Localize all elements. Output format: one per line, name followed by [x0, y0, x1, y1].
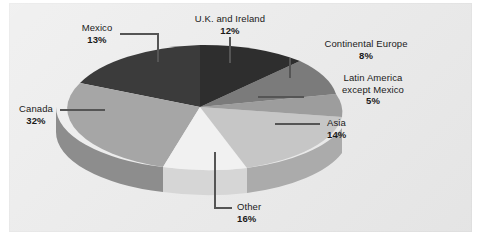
pie-label-latin-america: Latin America except Mexico 5%	[308, 72, 438, 107]
pie-chart-figure: Mexico 13% U.K. and Ireland 12% Continen…	[0, 0, 486, 245]
pie-label-latin-america-value: 5%	[308, 95, 438, 107]
pie-label-canada-value: 32%	[12, 115, 60, 127]
pie-label-other: Other 16%	[237, 201, 297, 224]
pie-label-uk-ireland-text: U.K. and Ireland	[195, 13, 265, 24]
pie-label-canada-text: Canada	[19, 103, 53, 114]
pie-label-continental-europe: Continental Europe 8%	[296, 38, 436, 61]
pie-label-latin-america-text-1: Latin America	[344, 72, 403, 83]
pie-label-asia-value: 14%	[327, 129, 397, 141]
pie-label-other-text: Other	[237, 201, 261, 212]
pie-label-uk-ireland: U.K. and Ireland 12%	[167, 13, 293, 36]
pie-top-face	[67, 45, 342, 170]
pie-label-continental-europe-text: Continental Europe	[324, 38, 407, 49]
pie-label-other-value: 16%	[237, 213, 297, 225]
pie-label-asia-text: Asia	[327, 117, 346, 128]
pie-label-mexico: Mexico 13%	[66, 22, 128, 45]
pie-label-canada: Canada 32%	[12, 103, 60, 126]
pie-label-mexico-value: 13%	[66, 34, 128, 46]
pie-label-continental-europe-value: 8%	[296, 50, 436, 62]
pie-label-latin-america-text-2: except Mexico	[342, 84, 404, 95]
pie-side-other	[163, 167, 247, 195]
pie-label-mexico-text: Mexico	[82, 22, 113, 33]
pie-label-uk-ireland-value: 12%	[167, 25, 293, 37]
pie-label-asia: Asia 14%	[327, 117, 397, 140]
